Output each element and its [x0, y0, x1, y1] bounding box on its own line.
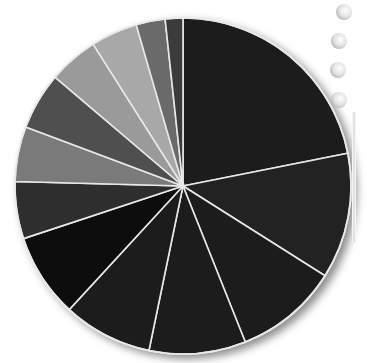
pie-svg — [0, 0, 367, 363]
binder-ring-icon — [330, 62, 346, 78]
pie-chart — [0, 0, 367, 363]
binder-ring-icon — [331, 92, 347, 108]
binder-ring-icon — [336, 4, 352, 20]
binder-ring-icon — [331, 33, 347, 49]
page-edge — [352, 112, 356, 242]
